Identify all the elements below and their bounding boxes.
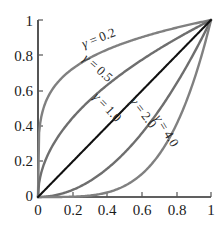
x-tick-label-0-6: 0.6 (133, 202, 152, 218)
label-gamma-0-5-group: γ=0.5 (80, 50, 116, 84)
gamma-curve-chart: 1 0.8 0.6 0.4 0.2 0 0 0.2 0.4 0.6 0.8 1 (0, 0, 223, 234)
x-tick-label-0: 0 (34, 202, 42, 218)
label-gamma-2-0-group: γ=2.0 (127, 94, 160, 131)
y-tick-label-0-8: 0.8 (14, 48, 33, 64)
label-gamma-1-0: γ=1.0 (90, 89, 125, 125)
plot-area: 1 0.8 0.6 0.4 0.2 0 0 0.2 0.4 0.6 0.8 1 (0, 0, 223, 234)
y-tick-label-0-6: 0.6 (14, 83, 33, 99)
x-tick-label-0-8: 0.8 (168, 202, 187, 218)
y-tick-label-0: 0 (26, 188, 34, 204)
x-axis-tick-labels: 0 0.2 0.4 0.6 0.8 1 (34, 202, 215, 218)
label-gamma-2-0: γ=2.0 (127, 94, 160, 131)
y-tick-label-0-2: 0.2 (14, 153, 33, 169)
curve-gamma-1-0 (38, 20, 211, 197)
gamma-value-0-2: 0.2 (97, 25, 118, 45)
label-gamma-0-5: γ=0.5 (80, 50, 116, 84)
y-axis-tick-labels: 1 0.8 0.6 0.4 0.2 0 (14, 13, 33, 204)
x-tick-label-0-2: 0.2 (64, 202, 83, 218)
y-tick-label-0-4: 0.4 (14, 118, 33, 134)
curve-group (38, 20, 211, 197)
gamma-value-1-0: 1.0 (103, 103, 125, 125)
label-gamma-4-0-group: γ=4.0 (151, 112, 182, 149)
label-gamma-1-0-group: γ=1.0 (90, 89, 125, 125)
y-tick-label-1: 1 (26, 13, 34, 29)
x-tick-label-1: 1 (207, 202, 215, 218)
label-gamma-4-0: γ=4.0 (151, 112, 182, 149)
x-tick-label-0-4: 0.4 (98, 202, 117, 218)
